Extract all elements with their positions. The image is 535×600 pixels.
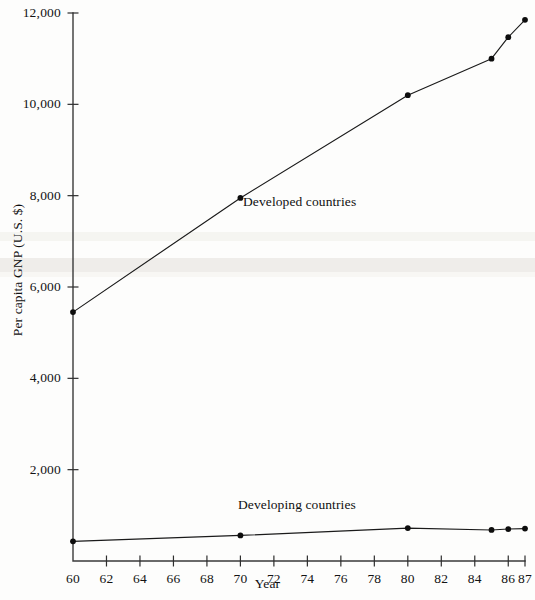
y-tick-label: 4,000 <box>0 372 61 386</box>
y-tick-label: 2,000 <box>0 463 61 477</box>
x-axis-title: Year <box>0 576 535 592</box>
y-tick-label: 10,000 <box>0 98 61 112</box>
chart-figure: 2,0004,0006,0008,00010,00012,000 6062646… <box>0 0 535 600</box>
y-tick-label: 12,000 <box>0 6 61 20</box>
data-point-marker <box>70 538 76 544</box>
data-point-marker <box>405 525 411 531</box>
series-path-developing <box>73 528 525 541</box>
axis-lines <box>73 13 525 561</box>
data-point-marker <box>522 526 528 532</box>
y-axis-title: Per capita GNP (U.S. $) <box>10 170 26 370</box>
data-point-marker <box>70 309 76 315</box>
data-series-group <box>70 17 528 544</box>
data-point-marker <box>238 533 244 539</box>
data-point-marker <box>522 17 528 23</box>
data-point-marker <box>489 56 495 62</box>
data-point-marker <box>405 92 411 98</box>
data-point-marker <box>489 527 495 533</box>
data-point-marker <box>505 526 511 532</box>
series-label-developing-countries: Developing countries <box>238 497 356 513</box>
series-label-developed-countries: Developed countries <box>243 194 356 210</box>
data-point-marker <box>505 34 511 40</box>
axes-group <box>73 13 525 561</box>
series-path-developed <box>73 20 525 312</box>
